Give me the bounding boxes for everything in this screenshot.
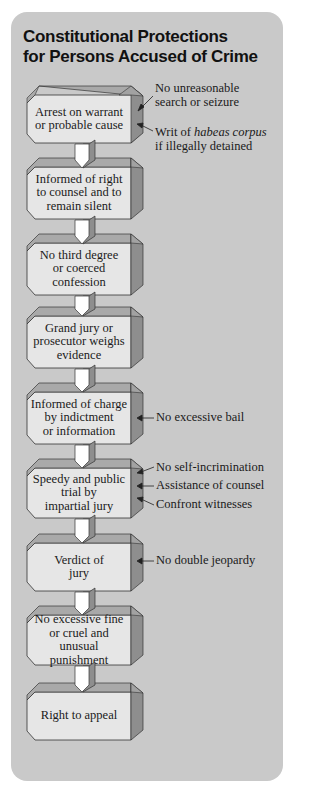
step-box-right-to-appeal: Right to appeal — [27, 683, 131, 741]
step-box-speedy-trial: Speedy and public trial by impartial jur… — [27, 459, 131, 519]
step-label: No third degree or coerced confession — [29, 243, 129, 295]
title-line-1: Constitutional Protections — [23, 27, 283, 47]
note-habeas-corpus: Writ of habeas corpus if illegally detai… — [155, 126, 267, 153]
step-label: Speedy and public trial by impartial jur… — [29, 468, 129, 518]
step-label: Informed of right to counsel and to rema… — [29, 167, 129, 219]
step-label: Informed of charge by indictment or info… — [29, 392, 129, 444]
step-box-verdict: Verdict of jury — [27, 534, 131, 592]
note-no-self-incrimination: No self-incrimination — [156, 461, 264, 475]
note-confront-witnesses: Confront witnesses — [156, 498, 252, 512]
step-box-no-third-degree: No third degree or coerced confession — [27, 234, 131, 296]
step-box-no-excessive-fine: No excessive fine or cruel and unusual p… — [27, 606, 131, 666]
step-label: Verdict of jury — [29, 543, 129, 591]
note-assistance-of-counsel: Assistance of counsel — [156, 479, 264, 493]
step-label: No excessive fine or cruel and unusual p… — [29, 615, 129, 665]
step-label: Grand jury or prosecutor weighs evidence — [29, 316, 129, 368]
step-box-informed-charge: Informed of charge by indictment or info… — [27, 383, 131, 445]
note-no-unreasonable-search: No unreasonable search or seizure — [155, 82, 239, 109]
title-line-2: for Persons Accused of Crime — [23, 47, 283, 67]
step-box-grand-jury: Grand jury or prosecutor weighs evidence — [27, 307, 131, 369]
note-no-excessive-bail: No excessive bail — [156, 411, 244, 425]
note-no-double-jeopardy: No double jeopardy — [156, 554, 255, 568]
step-label: Right to appeal — [29, 692, 129, 740]
diagram-title: Constitutional Protections for Persons A… — [23, 27, 283, 67]
step-label: Arrest on warrant or probable cause — [29, 95, 129, 143]
step-box-informed-right: Informed of right to counsel and to rema… — [27, 158, 131, 220]
step-box-arrest: Arrest on warrant or probable cause — [27, 86, 131, 144]
